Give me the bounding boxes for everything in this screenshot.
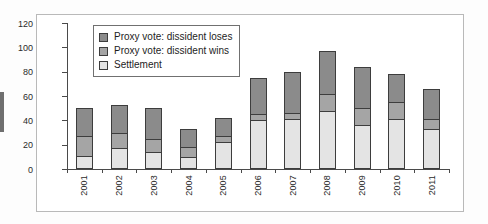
stacked-bar xyxy=(388,74,405,169)
chart-legend: Proxy vote: dissident loses Proxy vote: … xyxy=(93,25,240,77)
page-background: 020406080100120 200120022003200420052006… xyxy=(0,0,488,224)
bar-segment-proxy-vote-dissident-loses xyxy=(250,78,267,115)
bar-segment-proxy-vote-dissident-wins xyxy=(319,94,336,111)
bar-column xyxy=(423,23,440,169)
x-tick-mark xyxy=(310,169,311,173)
x-axis-line xyxy=(67,169,449,170)
x-tick-label: 2005 xyxy=(218,175,228,196)
x-tick-label: 2001 xyxy=(79,175,89,196)
bar-column xyxy=(250,23,267,169)
x-tick-mark xyxy=(275,169,276,173)
plot-area: 020406080100120 200120022003200420052006… xyxy=(37,15,463,211)
bar-segment-proxy-vote-dissident-wins xyxy=(180,147,197,157)
legend-item: Proxy vote: dissident loses xyxy=(99,30,232,44)
chart-figure-frame: 020406080100120 200120022003200420052006… xyxy=(36,14,464,212)
x-tick-mark xyxy=(206,169,207,173)
bar-segment-settlement xyxy=(76,156,93,169)
bar-column xyxy=(76,23,93,169)
stacked-bar xyxy=(423,89,440,169)
y-tick-label: 80 xyxy=(23,67,33,77)
bar-segment-proxy-vote-dissident-loses xyxy=(111,105,128,133)
x-tick-label: 2010 xyxy=(392,175,402,196)
y-tick-label: 100 xyxy=(18,43,33,53)
stacked-bar xyxy=(215,118,232,169)
x-tick-label: 2003 xyxy=(149,175,159,196)
stacked-bar xyxy=(111,105,128,169)
bar-segment-proxy-vote-dissident-wins xyxy=(423,119,440,129)
y-tick: 0 xyxy=(37,169,68,170)
bar-segment-proxy-vote-dissident-loses xyxy=(354,67,371,108)
bar-segment-settlement xyxy=(423,129,440,169)
bar-segment-proxy-vote-dissident-loses xyxy=(388,74,405,102)
x-tick-label: 2008 xyxy=(322,175,332,196)
y-tick: 100 xyxy=(37,47,68,48)
x-tick-label: 2009 xyxy=(357,175,367,196)
legend-item: Proxy vote: dissident wins xyxy=(99,44,232,58)
x-tick-mark xyxy=(171,169,172,173)
bar-segment-proxy-vote-dissident-loses xyxy=(215,118,232,136)
y-tick: 80 xyxy=(37,72,68,73)
bar-segment-settlement xyxy=(111,148,128,169)
bar-segment-settlement xyxy=(215,142,232,169)
y-tick: 40 xyxy=(37,120,68,121)
stacked-bar xyxy=(180,129,197,169)
x-tick-mark xyxy=(414,169,415,173)
bar-segment-proxy-vote-dissident-loses xyxy=(145,108,162,138)
bar-column xyxy=(319,23,336,169)
bar-segment-settlement xyxy=(354,125,371,169)
bar-segment-settlement xyxy=(284,119,301,169)
legend-label-dissident-wins: Proxy vote: dissident wins xyxy=(114,46,229,56)
bar-column xyxy=(284,23,301,169)
y-tick-label: 20 xyxy=(23,140,33,150)
x-tick-label: 2004 xyxy=(184,175,194,196)
bar-segment-settlement xyxy=(388,119,405,169)
legend-label-dissident-loses: Proxy vote: dissident loses xyxy=(114,32,232,42)
x-tick-label: 2002 xyxy=(114,175,124,196)
stacked-bar xyxy=(250,78,267,169)
x-tick-mark xyxy=(449,169,450,173)
legend-item: Settlement xyxy=(99,58,232,72)
stacked-bar xyxy=(284,72,301,169)
bar-segment-settlement xyxy=(319,111,336,169)
bar-segment-proxy-vote-dissident-loses xyxy=(319,51,336,94)
x-tick-mark xyxy=(380,169,381,173)
bar-segment-settlement xyxy=(180,157,197,169)
legend-swatch-settlement xyxy=(99,61,108,70)
x-tick-label: 2006 xyxy=(253,175,263,196)
bar-segment-proxy-vote-dissident-loses xyxy=(180,129,197,147)
stacked-bar xyxy=(319,51,336,169)
legend-swatch-dissident-wins xyxy=(99,47,108,56)
bar-segment-proxy-vote-dissident-wins xyxy=(111,133,128,149)
x-tick-label: 2011 xyxy=(427,175,437,195)
bar-segment-settlement xyxy=(250,120,267,169)
y-tick-label: 120 xyxy=(18,19,33,29)
y-tick-label: 40 xyxy=(23,116,33,126)
y-tick: 120 xyxy=(37,23,68,24)
x-tick-mark xyxy=(136,169,137,173)
legend-swatch-dissident-loses xyxy=(99,33,108,42)
y-tick: 60 xyxy=(37,96,68,97)
bar-column xyxy=(354,23,371,169)
legend-label-settlement: Settlement xyxy=(114,60,162,70)
bar-column xyxy=(388,23,405,169)
page-edge-mark xyxy=(0,92,4,132)
bar-segment-proxy-vote-dissident-loses xyxy=(284,72,301,113)
y-tick-label: 0 xyxy=(28,165,33,175)
bar-segment-settlement xyxy=(145,152,162,169)
y-tick-label: 60 xyxy=(23,92,33,102)
bar-segment-proxy-vote-dissident-wins xyxy=(354,108,371,125)
y-tick: 20 xyxy=(37,145,68,146)
x-tick-label: 2007 xyxy=(288,175,298,196)
bar-segment-proxy-vote-dissident-loses xyxy=(76,108,93,136)
x-tick-mark xyxy=(345,169,346,173)
x-tick-mark xyxy=(241,169,242,173)
bar-segment-proxy-vote-dissident-wins xyxy=(76,136,93,155)
stacked-bar xyxy=(145,108,162,169)
x-tick-mark xyxy=(102,169,103,173)
stacked-bar xyxy=(354,67,371,169)
stacked-bar xyxy=(76,108,93,169)
bar-segment-proxy-vote-dissident-wins xyxy=(388,102,405,119)
x-tick-mark xyxy=(67,169,68,173)
bar-segment-proxy-vote-dissident-loses xyxy=(423,89,440,119)
bar-segment-proxy-vote-dissident-wins xyxy=(145,139,162,152)
